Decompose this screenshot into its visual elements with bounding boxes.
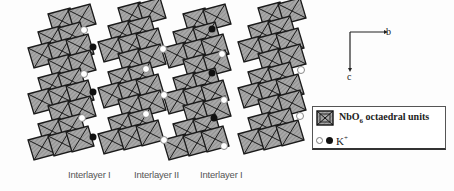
k-ion-open — [221, 97, 228, 104]
structure-figure: Interlayer I Interlayer II Interlayer I … — [0, 0, 454, 191]
k-ion-open — [143, 66, 150, 73]
legend-octahedra-text: NbO6 octaedral units — [339, 111, 429, 125]
k-ion-open — [79, 115, 86, 122]
legend: NbO6 octaedral units K+ — [312, 106, 446, 150]
k-ion-filled — [90, 89, 97, 96]
k-ion-open — [81, 27, 88, 34]
octahedron-column-3 — [163, 4, 231, 160]
octahedron-column-2 — [98, 0, 166, 154]
k-ion-open — [161, 137, 168, 144]
k-ion-filled — [211, 115, 218, 122]
octahedron-swatch-icon — [316, 110, 334, 126]
k-ion-open — [161, 92, 168, 99]
interlayer-label-1: Interlayer I — [68, 169, 110, 180]
legend-k-ions: K+ — [316, 134, 348, 147]
interlayer-label-3: Interlayer I — [200, 169, 242, 180]
axis-c-label: c — [347, 71, 351, 82]
axis-b-label: b — [386, 26, 391, 37]
k-ion-open — [219, 51, 226, 58]
legend-k-text: K+ — [336, 134, 348, 147]
k-ion-filled — [209, 70, 216, 77]
filled-circle-icon — [326, 137, 333, 144]
nbo6-octahedra-layers — [28, 0, 306, 160]
legend-octahedra: NbO6 octaedral units — [316, 110, 429, 126]
k-ion-open — [297, 113, 304, 120]
k-ion-filled — [209, 26, 216, 33]
k-ion-open — [160, 46, 167, 53]
open-circle-icon — [316, 137, 323, 144]
interlayer-label-2: Interlayer II — [134, 169, 179, 180]
k-ion-open — [221, 143, 228, 150]
octahedron-column-4 — [238, 0, 306, 154]
k-ion-open — [143, 111, 150, 118]
k-ion-filled — [90, 134, 97, 141]
k-ion-open — [81, 71, 88, 78]
k-ion-filled — [90, 44, 97, 51]
k-ion-open — [298, 67, 305, 74]
